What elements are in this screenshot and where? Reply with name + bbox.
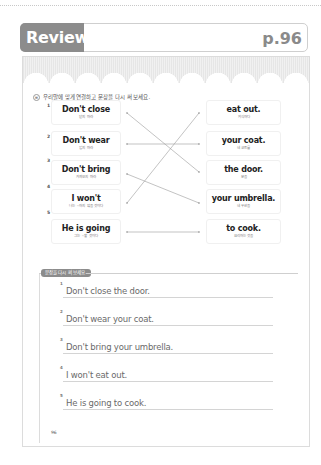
answer-text: He is going to cook. [63, 398, 146, 408]
phrase-ko: 입지 마라 [79, 146, 92, 151]
phrase-en: He is going [62, 224, 110, 234]
phrase-ko: 요리하는 것을 [234, 234, 253, 239]
item-number: 4 [47, 184, 50, 189]
rewrite-divider [86, 273, 298, 274]
phrase-en: eat out. [227, 105, 261, 115]
right-match-card-3[interactable]: the door. 문을 [206, 160, 281, 185]
phrase-en: to cook. [226, 224, 261, 234]
phrase-en: Don't wear [62, 136, 109, 146]
answer-text: Don't wear your coat. [63, 314, 154, 324]
phrase-ko: 그는 ~할 것이다 [74, 234, 97, 239]
answer-line-2[interactable]: 2 Don't wear your coat. [63, 312, 273, 326]
left-match-card-4[interactable]: I won't 나는 ~하지 않을 것이다 [51, 189, 121, 214]
phrase-en: I won't [71, 194, 100, 204]
answer-number: 4 [60, 365, 63, 371]
answer-text: I won't eat out. [63, 370, 127, 380]
answer-number: 5 [60, 393, 63, 399]
answer-number: 1 [60, 281, 63, 287]
answer-text: Don't bring your umbrella. [63, 342, 173, 352]
phrase-ko: 네 우산을 [237, 204, 250, 209]
phrase-ko: 외식하다 [238, 115, 250, 120]
item-number: 3 [47, 158, 50, 163]
answer-line-1[interactable]: 1 Don't close the door. [63, 284, 273, 298]
phrase-en: your umbrella. [212, 194, 275, 204]
answer-text: Don't close the door. [63, 286, 150, 296]
exercise-card: ≡ 우리말에 맞게 연결하고 문장을 다시 써 보세요. 1 Don't clo… [22, 56, 310, 447]
phrase-en: Don't close [62, 105, 110, 115]
answer-number: 2 [60, 309, 63, 315]
review-badge: Review [20, 23, 84, 52]
phrase-en: the door. [224, 165, 263, 175]
line-close-door [127, 113, 199, 172]
left-match-card-2[interactable]: Don't wear 입지 마라 [51, 131, 121, 156]
phrase-ko: 나는 ~하지 않을 것이다 [69, 204, 102, 209]
right-match-card-1[interactable]: eat out. 외식하다 [206, 100, 281, 125]
phrase-ko: 문을 [241, 175, 247, 180]
left-match-card-5[interactable]: He is going 그는 ~할 것이다 [51, 219, 121, 244]
right-match-card-4[interactable]: your umbrella. 네 우산을 [206, 189, 281, 214]
page-reference: p.96 [262, 24, 302, 53]
line-bring-umbrella [127, 174, 199, 203]
right-match-card-5[interactable]: to cook. 요리하는 것을 [206, 219, 281, 244]
page-number: 96 [51, 430, 57, 435]
left-match-card-1[interactable]: Don't close 닫지 마라 [51, 100, 121, 125]
answer-line-5[interactable]: 5 He is going to cook. [63, 396, 273, 410]
review-header: Review p.96 [20, 23, 308, 52]
item-number: 2 [47, 134, 50, 139]
answer-line-3[interactable]: 3 Don't bring your umbrella. [63, 340, 273, 354]
rewrite-label: 문장을 다시 써 보세요. [41, 269, 91, 277]
phrase-en: your coat. [222, 136, 266, 146]
rewrite-frame-left [39, 273, 40, 443]
scalloped-banner [23, 57, 309, 83]
phrase-en: Don't bring [62, 165, 111, 175]
line-wont-eatout [127, 113, 199, 203]
phrase-ko: 가져오지 마라 [76, 175, 95, 180]
left-match-card-3[interactable]: Don't bring 가져오지 마라 [51, 160, 121, 185]
list-icon: ≡ [33, 94, 40, 101]
phrase-ko: 네 코트를 [237, 146, 250, 151]
item-number: 1 [47, 103, 50, 108]
top-dotted-divider [0, 5, 321, 6]
item-number: 5 [47, 210, 50, 215]
phrase-ko: 닫지 마라 [79, 115, 92, 120]
answer-number: 3 [60, 337, 63, 343]
right-match-card-2[interactable]: your coat. 네 코트를 [206, 131, 281, 156]
answer-line-4[interactable]: 4 I won't eat out. [63, 368, 273, 382]
